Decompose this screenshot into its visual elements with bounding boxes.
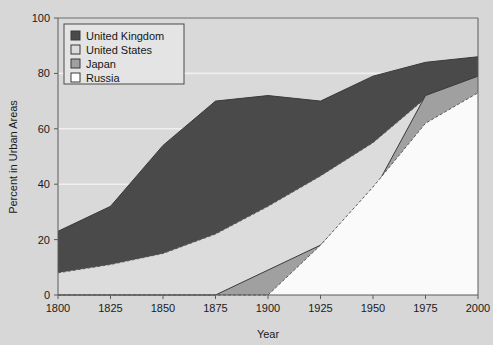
chart-canvas: 020406080100 180018251850187519001925195…: [0, 0, 493, 345]
legend-swatch-russia: [71, 73, 80, 82]
x-tick-label: 1875: [203, 302, 227, 314]
area-chart: 020406080100 180018251850187519001925195…: [0, 0, 493, 345]
legend-label-united-kingdom: United Kingdom: [86, 30, 164, 42]
x-tick-label: 1800: [46, 302, 70, 314]
x-tick-label: 1825: [98, 302, 122, 314]
legend-label-united-states: United States: [86, 44, 153, 56]
legend-label-russia: Russia: [86, 72, 121, 84]
y-tick-label: 0: [44, 289, 50, 301]
y-tick-label: 100: [32, 12, 50, 24]
x-tick-label: 1900: [256, 302, 280, 314]
y-tick-label: 40: [38, 178, 50, 190]
y-tick-label: 20: [38, 234, 50, 246]
x-tick-label: 1925: [308, 302, 332, 314]
x-tick-label: 2000: [466, 302, 490, 314]
legend: United KingdomUnited StatesJapanRussia: [64, 24, 184, 84]
x-tick-label: 1850: [151, 302, 175, 314]
legend-label-japan: Japan: [86, 58, 116, 70]
x-axis-title: Year: [257, 328, 280, 340]
legend-swatch-united-states: [71, 45, 80, 54]
legend-swatch-japan: [71, 59, 80, 68]
legend-swatch-united-kingdom: [71, 31, 80, 40]
y-tick-label: 60: [38, 123, 50, 135]
x-tick-label: 1975: [413, 302, 437, 314]
y-tick-label: 80: [38, 67, 50, 79]
y-axis-title: Percent in Urban Areas: [7, 100, 19, 214]
x-tick-label: 1950: [361, 302, 385, 314]
